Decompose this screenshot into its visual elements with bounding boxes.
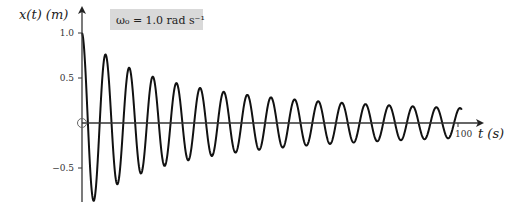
annotation-box: ω₀ = 1.0 rad s⁻¹ (110, 9, 205, 30)
oscillation-curve (82, 33, 462, 201)
x-axis-label: t (s) (478, 126, 504, 141)
annotation-text: ω₀ = 1.0 rad s⁻¹ (116, 14, 205, 27)
x-tick-label-100: 100 (455, 129, 472, 139)
y-tick-label-0.5: 0.5 (60, 73, 75, 83)
y-axis-label: x(t) (m) (19, 7, 68, 22)
y-ticks: 1.0 0.5 −0.5 (52, 28, 82, 173)
y-tick-label-1: 1.0 (60, 28, 75, 38)
y-tick-label-neg-0.5: −0.5 (52, 163, 74, 173)
damped-oscillation-chart: ω₀ = 1.0 rad s⁻¹ 1.0 0.5 −0.5 100 x(t) (… (0, 0, 525, 212)
x-ticks: 100 (455, 123, 472, 139)
